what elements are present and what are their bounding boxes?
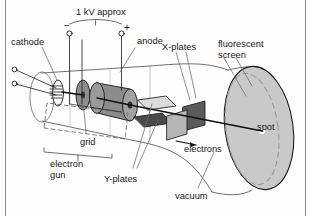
electron-gun-label-line2: gun <box>50 170 66 180</box>
fluorescent-screen-label-line1: fluorescent <box>218 39 264 49</box>
spot-label: spot <box>257 122 275 132</box>
electron-gun-label-line1: electron <box>50 159 83 169</box>
supply-positive-sign: + <box>124 22 130 33</box>
vacuum-label: vacuum <box>175 191 208 201</box>
supply-label: 1 kV approx <box>76 7 126 17</box>
heater-terminal-1 <box>12 67 17 72</box>
electrons-label: electrons <box>184 144 222 154</box>
crt-diagram-figure: 1 kV approx − + cathode anode X-plates f… <box>0 0 311 216</box>
supply-negative-terminal <box>67 31 72 36</box>
x-plates-label: X-plates <box>162 42 196 52</box>
cathode-label: cathode <box>11 37 44 47</box>
cathode-assembly <box>12 67 63 106</box>
supply-negative-sign: − <box>64 20 70 31</box>
anode-label: anode <box>137 36 163 46</box>
fluorescent-screen-label-line2: screen <box>218 50 246 60</box>
heater-terminal-2 <box>12 81 17 86</box>
y-plates-label: Y-plates <box>104 174 138 184</box>
grid-label: grid <box>80 137 96 147</box>
crt-diagram-svg: 1 kV approx − + cathode anode X-plates f… <box>0 0 311 216</box>
